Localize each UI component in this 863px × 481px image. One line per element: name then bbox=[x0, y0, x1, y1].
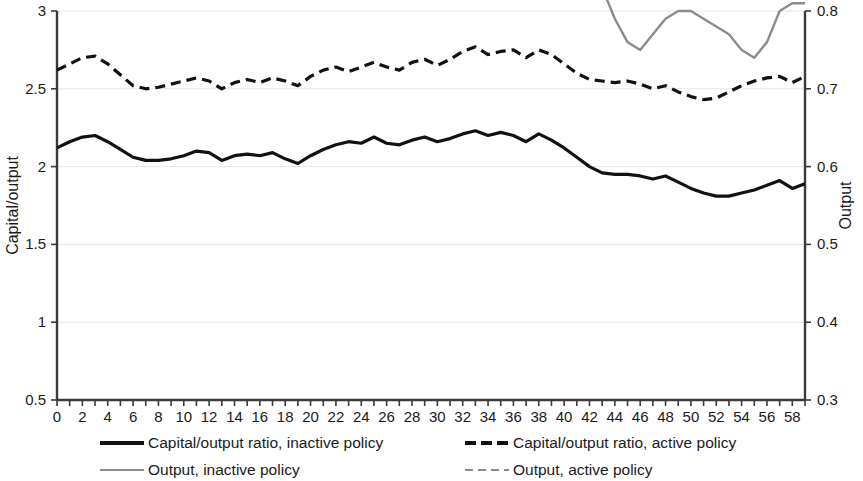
axis-ticks bbox=[51, 11, 811, 406]
y-tick-label-left: 2.5 bbox=[25, 80, 46, 97]
x-tick-label: 26 bbox=[378, 408, 395, 425]
y-tick-label-right: 0.6 bbox=[817, 158, 838, 175]
axis-titles: Capital/outputOutput bbox=[4, 156, 854, 255]
x-tick-label: 58 bbox=[784, 408, 801, 425]
x-tick-label: 16 bbox=[252, 408, 269, 425]
x-tick-label: 52 bbox=[708, 408, 725, 425]
x-tick-label: 22 bbox=[328, 408, 345, 425]
x-tick-label: 44 bbox=[606, 408, 623, 425]
x-tick-label: 4 bbox=[104, 408, 112, 425]
x-tick-label: 48 bbox=[657, 408, 674, 425]
x-tick-label: 12 bbox=[201, 408, 218, 425]
y-axis-title-left: Capital/output bbox=[4, 156, 21, 255]
y-axis-title-right: Output bbox=[837, 181, 854, 230]
x-tick-label: 8 bbox=[154, 408, 162, 425]
x-tick-label: 32 bbox=[454, 408, 471, 425]
x-tick-label: 36 bbox=[505, 408, 522, 425]
y-tick-label-right: 0.3 bbox=[817, 391, 838, 408]
gridlines bbox=[57, 11, 805, 322]
y-tick-label-right: 0.7 bbox=[817, 80, 838, 97]
x-tick-label: 6 bbox=[129, 408, 137, 425]
x-tick-label: 34 bbox=[480, 408, 497, 425]
y-tick-label-right: 0.5 bbox=[817, 235, 838, 252]
y-tick-label-left: 2 bbox=[38, 158, 46, 175]
series-line-1 bbox=[57, 47, 805, 100]
chart-figure: 0.511.522.530.30.40.50.60.70.80246810121… bbox=[0, 0, 863, 481]
y-tick-label-left: 0.5 bbox=[25, 391, 46, 408]
x-tick-label: 54 bbox=[733, 408, 750, 425]
legend-label-3: Output, active policy bbox=[513, 461, 653, 478]
x-tick-label: 28 bbox=[404, 408, 421, 425]
y-tick-label-left: 1 bbox=[38, 313, 46, 330]
series-line-0 bbox=[57, 131, 805, 196]
x-tick-label: 46 bbox=[632, 408, 649, 425]
x-tick-label: 10 bbox=[175, 408, 192, 425]
x-tick-label: 30 bbox=[429, 408, 446, 425]
x-tick-label: 20 bbox=[302, 408, 319, 425]
x-tick-label: 24 bbox=[353, 408, 370, 425]
y-tick-label-left: 3 bbox=[38, 2, 46, 19]
x-tick-label: 56 bbox=[759, 408, 776, 425]
x-tick-label: 42 bbox=[581, 408, 598, 425]
line-chart: 0.511.522.530.30.40.50.60.70.80246810121… bbox=[0, 0, 863, 481]
x-tick-label: 14 bbox=[226, 408, 243, 425]
legend-label-2: Output, inactive policy bbox=[148, 461, 300, 478]
x-tick-label: 18 bbox=[277, 408, 294, 425]
x-tick-label: 2 bbox=[78, 408, 86, 425]
y-tick-label-left: 1.5 bbox=[25, 235, 46, 252]
axes bbox=[57, 11, 805, 400]
chart-legend: Capital/output ratio, inactive policyCap… bbox=[100, 434, 736, 478]
legend-label-0: Capital/output ratio, inactive policy bbox=[148, 434, 383, 451]
x-tick-label: 40 bbox=[556, 408, 573, 425]
axis-tick-labels: 0.511.522.530.30.40.50.60.70.80246810121… bbox=[25, 2, 838, 425]
legend-label-1: Capital/output ratio, active policy bbox=[513, 434, 736, 451]
x-tick-label: 38 bbox=[530, 408, 547, 425]
y-tick-label-right: 0.4 bbox=[817, 313, 838, 330]
series-line-2 bbox=[57, 0, 805, 58]
x-tick-label: 50 bbox=[683, 408, 700, 425]
x-tick-label: 0 bbox=[53, 408, 61, 425]
y-tick-label-right: 0.8 bbox=[817, 2, 838, 19]
